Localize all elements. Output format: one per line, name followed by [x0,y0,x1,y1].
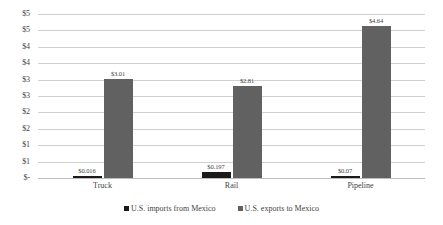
legend-label-exports: U.S. exports to Mexico [245,204,319,213]
y-axis-tick-label: $3 [22,76,30,84]
y-axis-tick-label: $2 [22,108,30,116]
bar-rail-imports[interactable] [202,172,231,178]
y-axis-tick-label: $5 [22,26,30,34]
bar-rail-exports[interactable] [233,86,262,178]
legend-swatch-icon-exports [238,206,243,211]
gridline [38,14,425,15]
bar-chart: $5$5$4$4$3$3$2$2$1$1$- $0.016$3.01$0.197… [0,0,443,225]
bar-value-label: $3.01 [96,70,141,77]
axis-baseline [38,178,425,179]
x-axis: TruckRailPipeline [38,181,425,195]
y-axis-tick-label: $1 [22,141,30,149]
bar-pipeline-imports[interactable] [331,176,360,178]
legend-swatch-icon-imports [124,206,129,211]
bar-value-label: $2.81 [225,77,270,84]
legend-item-imports[interactable]: U.S. imports from Mexico [124,204,216,213]
bar-truck-imports[interactable] [73,176,102,178]
x-axis-category-label: Truck [38,181,167,191]
bar-pipeline-exports[interactable] [362,26,391,178]
y-axis-tick-label: $2 [22,125,30,133]
x-axis-category-label: Rail [167,181,296,191]
legend-item-exports[interactable]: U.S. exports to Mexico [238,204,319,213]
y-axis-tick-label: $- [24,174,30,182]
chart-legend: U.S. imports from Mexico U.S. exports to… [0,200,443,216]
y-axis-tick-label: $1 [22,158,30,166]
y-axis: $5$5$4$4$3$3$2$2$1$1$- [0,0,34,192]
bar-truck-exports[interactable] [104,79,133,178]
bar-value-label: $4.64 [354,17,399,24]
legend-label-imports: U.S. imports from Mexico [131,204,216,213]
plot-area: $0.016$3.01$0.197$2.81$0.07$4.64 [38,14,425,178]
x-axis-category-label: Pipeline [296,181,425,191]
y-axis-tick-label: $3 [22,92,30,100]
y-axis-tick-label: $5 [22,10,30,18]
y-axis-tick-label: $4 [22,43,30,51]
y-axis-tick-label: $4 [22,59,30,67]
